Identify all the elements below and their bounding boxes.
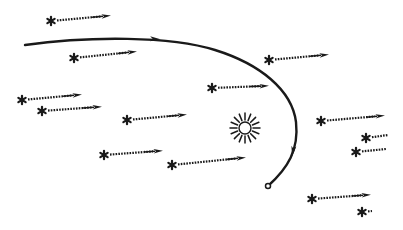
- sun-ray: [252, 131, 258, 134]
- star-with-arrow: [362, 134, 388, 142]
- star-icon: [358, 208, 365, 216]
- star-with-arrow: [352, 148, 386, 156]
- star-icon: [168, 161, 175, 169]
- star-icon: [362, 134, 369, 142]
- sun-disc: [239, 122, 251, 134]
- sun-ray: [239, 135, 242, 141]
- sun-ray: [231, 131, 237, 134]
- sun-ray: [251, 134, 256, 139]
- star-with-arrow: [70, 49, 137, 62]
- star-icon: [70, 54, 77, 62]
- star-with-arrow: [208, 84, 269, 93]
- sun-ray: [248, 114, 251, 120]
- sun-icon: [230, 113, 260, 143]
- star-icon: [47, 17, 54, 25]
- star-icon: [265, 56, 272, 64]
- sun-ray: [251, 117, 256, 122]
- star-icon: [208, 84, 215, 92]
- star-icon: [308, 195, 315, 203]
- star-icon: [18, 96, 25, 104]
- dotted-trail: [362, 149, 386, 151]
- star-motion-arrows: [18, 13, 388, 216]
- sun-ray: [239, 114, 242, 120]
- star-icon: [38, 107, 45, 115]
- star-icon: [317, 117, 324, 125]
- star-with-arrow: [123, 112, 187, 124]
- star-icon: [352, 148, 359, 156]
- comet-icon: [266, 184, 271, 189]
- sun-ray: [252, 122, 258, 125]
- sun-ray: [234, 117, 239, 122]
- comet-orbit: [25, 36, 296, 186]
- star-with-arrow: [265, 52, 329, 64]
- star-with-arrow: [38, 104, 102, 115]
- star-icon: [123, 116, 130, 124]
- star-with-arrow: [317, 113, 385, 125]
- sun-ray: [231, 122, 237, 125]
- star-with-arrow: [100, 148, 163, 159]
- star-with-arrow: [47, 13, 111, 25]
- star-icon: [100, 151, 107, 159]
- diagram-canvas: [0, 0, 403, 230]
- orbit-path: [25, 39, 296, 186]
- dotted-trail: [372, 135, 388, 137]
- comet-orbit-diagram: [0, 0, 403, 230]
- sun-ray: [234, 134, 239, 139]
- star-with-arrow: [358, 208, 372, 216]
- comet-head: [266, 184, 271, 189]
- star-with-arrow: [168, 155, 246, 169]
- star-with-arrow: [308, 192, 371, 203]
- sun-ray: [248, 135, 251, 141]
- star-with-arrow: [18, 92, 82, 104]
